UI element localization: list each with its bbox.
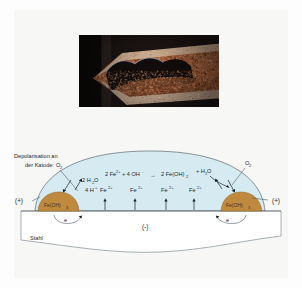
anode-right-label: Fe(OH) xyxy=(226,202,243,208)
page-root: Depolarisation an der Katode: O 2 O 2 xyxy=(0,0,302,288)
steel-substrate xyxy=(21,211,281,252)
pole-right-positive: (+) xyxy=(272,197,280,205)
iron-ion-label-4: Fe xyxy=(189,187,196,193)
water-label: 2 H xyxy=(82,177,91,183)
corroded-pipe-photograph xyxy=(79,35,219,107)
pole-left-positive: (+) xyxy=(15,197,23,205)
equation-reactant-iron-charge: 2+ xyxy=(116,169,121,174)
iron-ion-label-3: Fe xyxy=(161,187,168,193)
water-label-tail: O xyxy=(94,177,99,183)
equation-product: 2 Fe(OH) xyxy=(161,171,184,177)
iron-ion-label-1: Fe xyxy=(100,187,107,193)
cathode-note-line2: der Katode: xyxy=(25,162,54,168)
oxygen-label-right-subscript: 2 xyxy=(249,163,252,168)
equation-arrow: → xyxy=(150,172,156,178)
anode-left-label: Fe(OH) xyxy=(44,202,61,208)
equation-addend-tail: O xyxy=(207,168,212,174)
electron-label-left: e xyxy=(64,217,67,223)
electron-label-right: e xyxy=(226,217,229,223)
iron-ion-charge-4: 2+ xyxy=(197,185,202,190)
substrate-label: Stahl xyxy=(30,235,43,241)
equation-addend: + H xyxy=(196,168,205,174)
cathode-note-line1: Depolarisation an xyxy=(14,153,58,159)
equation-reactant-hydroxide: + 4 OH xyxy=(122,171,140,177)
proton-label: 4 H xyxy=(85,187,94,193)
pole-center-negative: (-) xyxy=(142,223,148,231)
iron-ion-charge-1: 2+ xyxy=(108,185,113,190)
iron-ion-label-2: Fe xyxy=(130,187,137,193)
equation-reactant-iron: 2 Fe xyxy=(105,171,116,177)
iron-ion-charge-2: 2+ xyxy=(138,185,143,190)
oxygen-corrosion-cell-diagram: Depolarisation an der Katode: O 2 O 2 xyxy=(0,140,302,288)
corroded-pipe-photo-canvas xyxy=(79,35,219,107)
iron-ion-charge-3: 2+ xyxy=(169,185,174,190)
